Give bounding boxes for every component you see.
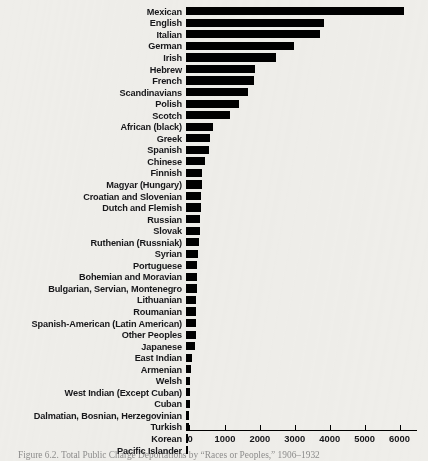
category-label: West Indian (Except Cuban) xyxy=(0,388,186,398)
chart-row: Irish xyxy=(0,52,428,64)
bar-track xyxy=(186,179,428,191)
chart-row: Spanish xyxy=(0,145,428,157)
chart-row: Dalmatian, Bosnian, Herzegovinian xyxy=(0,410,428,422)
bar-track xyxy=(186,306,428,318)
category-label: Greek xyxy=(0,134,186,144)
category-label: Turkish xyxy=(0,422,186,432)
chart-row: Ruthenian (Russniak) xyxy=(0,237,428,249)
x-tick xyxy=(365,425,366,431)
chart-row: Chinese xyxy=(0,156,428,168)
category-label: Mexican xyxy=(0,7,186,17)
bar-track xyxy=(186,318,428,330)
bar-track xyxy=(186,387,428,399)
bar xyxy=(186,388,190,396)
chart-row: Welsh xyxy=(0,376,428,388)
bar-track xyxy=(186,87,428,99)
bar xyxy=(186,284,197,292)
bar-track xyxy=(186,110,428,122)
category-label: Korean xyxy=(0,434,186,444)
bar xyxy=(186,100,239,108)
category-label: German xyxy=(0,41,186,51)
x-tick xyxy=(295,425,296,431)
bar xyxy=(186,76,254,84)
chart-rows: MexicanEnglishItalianGermanIrishHebrewFr… xyxy=(0,6,428,456)
category-label: Spanish-American (Latin American) xyxy=(0,319,186,329)
chart-row: Japanese xyxy=(0,341,428,353)
x-tick-label: 3000 xyxy=(284,433,305,444)
x-tick-label: 6000 xyxy=(389,433,410,444)
bar-track xyxy=(186,410,428,422)
bar xyxy=(186,134,210,142)
x-tick xyxy=(400,425,401,431)
x-tick-label: 4000 xyxy=(319,433,340,444)
bar-track xyxy=(186,272,428,284)
bar-track xyxy=(186,168,428,180)
bar xyxy=(186,146,209,154)
bar xyxy=(186,342,195,350)
bar xyxy=(186,296,196,304)
bar-track xyxy=(186,18,428,30)
chart-row: Polish xyxy=(0,98,428,110)
bar xyxy=(186,238,199,246)
bar xyxy=(186,123,213,131)
category-label: Welsh xyxy=(0,376,186,386)
bar xyxy=(186,215,200,223)
category-label: Lithuanian xyxy=(0,295,186,305)
category-label: Cuban xyxy=(0,399,186,409)
bar xyxy=(186,319,196,327)
category-label: Hebrew xyxy=(0,65,186,75)
figure-container: MexicanEnglishItalianGermanIrishHebrewFr… xyxy=(0,0,428,461)
category-label: Scotch xyxy=(0,111,186,121)
chart-row: Syrian xyxy=(0,248,428,260)
chart-row: Italian xyxy=(0,29,428,41)
chart-row: Finnish xyxy=(0,168,428,180)
bar xyxy=(186,273,197,281)
category-label: Armenian xyxy=(0,365,186,375)
bar xyxy=(186,111,230,119)
bar xyxy=(186,307,196,315)
bar-track xyxy=(186,399,428,411)
chart-row: Cuban xyxy=(0,399,428,411)
category-label: Bulgarian, Servian, Montenegro xyxy=(0,284,186,294)
chart-row: Croatian and Slovenian xyxy=(0,191,428,203)
bar xyxy=(186,354,192,362)
bar xyxy=(186,157,205,165)
category-label: Magyar (Hungary) xyxy=(0,180,186,190)
category-label: Dutch and Flemish xyxy=(0,203,186,213)
x-tick xyxy=(260,425,261,431)
bar-track xyxy=(186,6,428,18)
bar-track xyxy=(186,295,428,307)
bar-track xyxy=(186,64,428,76)
chart-row: African (black) xyxy=(0,121,428,133)
chart-row: Dutch and Flemish xyxy=(0,202,428,214)
bar xyxy=(186,30,320,38)
x-tick xyxy=(330,425,331,431)
bar xyxy=(186,180,202,188)
chart-row: Other Peoples xyxy=(0,329,428,341)
category-label: Finnish xyxy=(0,168,186,178)
bar-track xyxy=(186,376,428,388)
x-tick xyxy=(225,425,226,431)
bar-track xyxy=(186,352,428,364)
category-label: Polish xyxy=(0,99,186,109)
category-label: East Indian xyxy=(0,353,186,363)
category-label: Roumanian xyxy=(0,307,186,317)
chart-row: French xyxy=(0,75,428,87)
category-label: Bohemian and Moravian xyxy=(0,272,186,282)
bar-track xyxy=(186,341,428,353)
category-label: Japanese xyxy=(0,342,186,352)
x-tick-label: 1000 xyxy=(214,433,235,444)
bar-track xyxy=(186,364,428,376)
bar xyxy=(186,65,255,73)
bar-track xyxy=(186,133,428,145)
category-label: Syrian xyxy=(0,249,186,259)
bar xyxy=(186,261,197,269)
bar xyxy=(186,88,248,96)
category-label: English xyxy=(0,18,186,28)
bar-track xyxy=(186,98,428,110)
bar xyxy=(186,250,198,258)
chart-row: Russian xyxy=(0,214,428,226)
bar-track xyxy=(186,214,428,226)
x-tick-label: 5000 xyxy=(354,433,375,444)
category-label: Croatian and Slovenian xyxy=(0,192,186,202)
